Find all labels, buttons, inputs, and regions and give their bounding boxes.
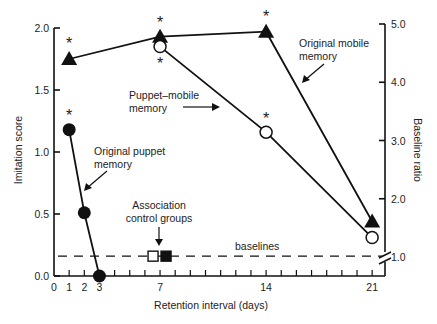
triangle-marker (364, 213, 380, 227)
y-tick-label: 1.0 (34, 146, 49, 158)
label-association: Association (132, 199, 186, 211)
control-square-filled (161, 251, 171, 261)
filled-circle-marker (63, 123, 76, 136)
label-association-2: control groups (126, 212, 193, 224)
y-tick-label: 2.0 (34, 22, 49, 34)
significance-star: * (66, 35, 72, 52)
y-tick-label: 0.5 (34, 208, 49, 220)
x-tick-label: 3 (97, 281, 103, 293)
label-original-mobile: Original mobile (299, 37, 369, 49)
x-tick-label: 7 (157, 281, 163, 293)
significance-star: * (157, 14, 163, 31)
label-original-puppet-2: memory (94, 158, 133, 170)
y2-tick-label: 4.0 (391, 76, 406, 88)
control-square-open (148, 251, 158, 261)
significance-star: * (66, 107, 72, 124)
chart: 0.00.51.01.52.00123714211.02.03.04.05.0 … (0, 0, 437, 324)
open-circle-marker (366, 232, 378, 244)
open-circle-marker (154, 41, 166, 53)
y-axis-title: Imitation score (12, 116, 24, 184)
y2-tick-label: 5.0 (391, 18, 406, 30)
label-puppet-mobile: Puppet–mobile (129, 89, 199, 101)
triangle-marker (258, 24, 274, 38)
y-tick-label: 1.5 (34, 84, 49, 96)
significance-star: * (263, 8, 269, 25)
open-circle-marker (260, 126, 272, 138)
axis-break (379, 252, 391, 258)
label-original-puppet: Original puppet (94, 145, 165, 157)
x-tick-label: 21 (366, 281, 378, 293)
y2-tick-label: 1.0 (391, 251, 406, 263)
x-tick-label: 14 (260, 281, 272, 293)
y2-tick-label: 2.0 (391, 193, 406, 205)
series-line (160, 47, 372, 238)
label-original-mobile-2: memory (299, 50, 338, 62)
y-tick-label: 0.0 (34, 270, 49, 282)
y2-tick-label: 3.0 (391, 135, 406, 147)
y2-axis-title: Baseline ratio (412, 118, 424, 182)
annotation-labels: Original mobile memory Puppet–mobile mem… (12, 37, 424, 311)
label-puppet-mobile-2: memory (129, 102, 168, 114)
axes: 0.00.51.01.52.00123714211.02.03.04.05.0 (34, 18, 405, 293)
significance-star: * (157, 55, 163, 72)
x-axis-title: Retention interval (days) (154, 299, 268, 311)
filled-circle-marker (93, 270, 106, 283)
x-tick-label: 1 (66, 281, 72, 293)
significance-star: * (263, 110, 269, 127)
x-tick-label: 2 (81, 281, 87, 293)
label-baselines: baselines (235, 240, 279, 252)
x-tick-label: 0 (51, 281, 57, 293)
filled-circle-marker (78, 206, 91, 219)
